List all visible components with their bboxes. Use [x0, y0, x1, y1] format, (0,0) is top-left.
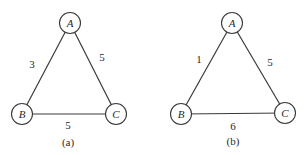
figure-caption: (b) — [227, 135, 240, 148]
figure-caption: (a) — [62, 136, 75, 149]
node-label: B — [19, 108, 26, 120]
figure-b: A B C 1 5 6 (b) — [171, 13, 296, 149]
edge-a-ac — [70, 23, 116, 114]
figure-a: A B C 3 5 5 (a) — [12, 13, 127, 150]
edge-weight: 5 — [267, 56, 273, 68]
node-label: A — [66, 17, 74, 29]
edge-weight: 1 — [196, 53, 202, 65]
edge-b-bc — [181, 113, 285, 114]
edge-weight: 5 — [99, 51, 105, 63]
graph-diagrams: A B C 3 5 5 (a) A B C 1 5 6 (b) — [0, 0, 307, 155]
edge-b-ab — [181, 23, 232, 114]
node-label: C — [112, 108, 120, 120]
edge-weight: 6 — [230, 120, 236, 132]
node-label: A — [228, 17, 236, 29]
edge-weight: 3 — [29, 58, 35, 70]
edge-weight: 5 — [65, 119, 71, 131]
node-label: B — [178, 108, 185, 120]
node-label: C — [281, 107, 289, 119]
edge-b-ac — [232, 23, 285, 113]
